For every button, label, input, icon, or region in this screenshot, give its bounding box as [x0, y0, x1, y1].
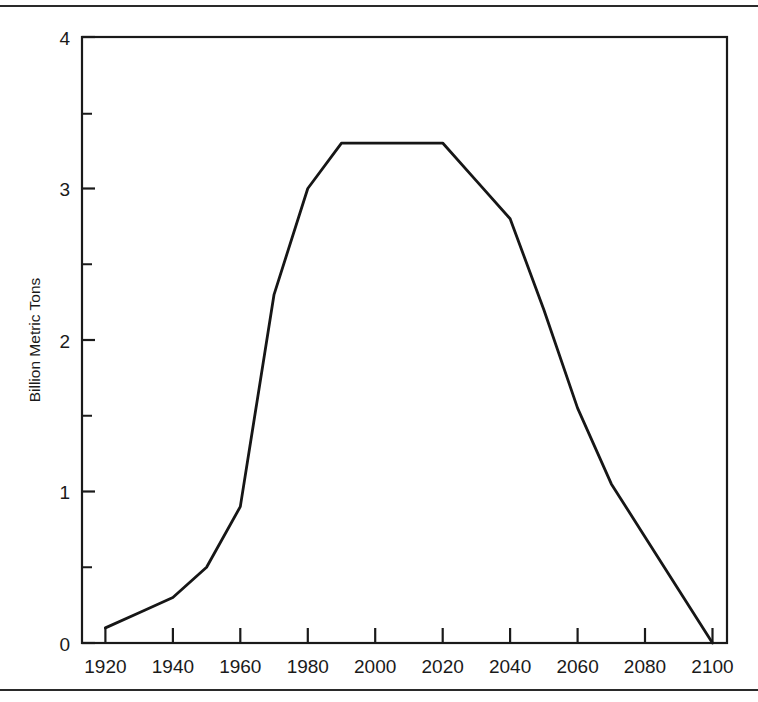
x-axis-ticks [105, 628, 712, 643]
y-axis-title: Billion Metric Tons [26, 277, 43, 402]
plot-frame [82, 37, 727, 643]
x-tick-label: 1980 [287, 656, 329, 677]
y-tick-label: 4 [59, 28, 70, 49]
x-tick-labels: 1920 1940 1960 1980 2000 2020 2040 2060 … [84, 656, 733, 677]
x-tick-label: 1960 [219, 656, 261, 677]
y-tick-label: 0 [59, 634, 70, 655]
x-tick-label: 2040 [489, 656, 531, 677]
y-tick-labels: 4 3 2 1 0 [59, 28, 70, 655]
y-axis-ticks [82, 37, 95, 643]
x-tick-label: 2060 [556, 656, 598, 677]
x-tick-label: 2080 [624, 656, 666, 677]
data-series-line [105, 143, 712, 643]
x-tick-label: 2020 [422, 656, 464, 677]
page-bottom-rule [0, 689, 758, 691]
page-top-rule [0, 5, 758, 7]
y-tick-label: 2 [59, 331, 70, 352]
y-tick-label: 1 [59, 482, 70, 503]
x-tick-label: 1920 [84, 656, 126, 677]
line-chart-svg: 4 3 2 1 0 1920 1940 1960 1980 2000 2020 … [0, 8, 758, 688]
y-tick-label: 3 [59, 179, 70, 200]
x-tick-label: 2100 [691, 656, 733, 677]
chart-figure: 4 3 2 1 0 1920 1940 1960 1980 2000 2020 … [0, 8, 758, 688]
chart-page: 4 3 2 1 0 1920 1940 1960 1980 2000 2020 … [0, 0, 758, 702]
x-tick-label: 1940 [152, 656, 194, 677]
x-tick-label: 2000 [354, 656, 396, 677]
